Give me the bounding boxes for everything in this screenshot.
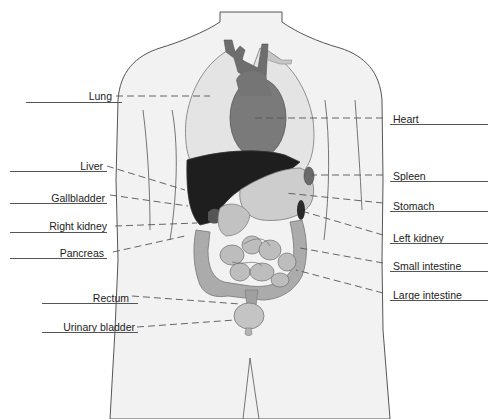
answer-line-left-kidney[interactable] [390,243,488,244]
answer-line-small-intestine[interactable] [390,271,488,272]
answer-line-lung[interactable] [26,102,122,103]
answer-line-large-intestine[interactable] [390,300,488,301]
answer-line-urinary-bladder[interactable] [42,332,138,333]
label-right-kidney: Right kidney [30,220,107,232]
left-kidney [297,200,305,220]
answer-line-heart[interactable] [390,124,488,125]
answer-line-right-kidney[interactable] [10,232,107,233]
answer-line-rectum[interactable] [42,303,138,304]
answer-line-gallbladder[interactable] [10,203,107,204]
answer-line-spleen[interactable] [390,181,488,182]
answer-line-pancreas[interactable] [10,258,107,259]
answer-line-liver[interactable] [10,171,107,172]
spleen [304,167,314,185]
label-lung: Lung [60,90,112,102]
answer-line-stomach[interactable] [390,211,488,212]
